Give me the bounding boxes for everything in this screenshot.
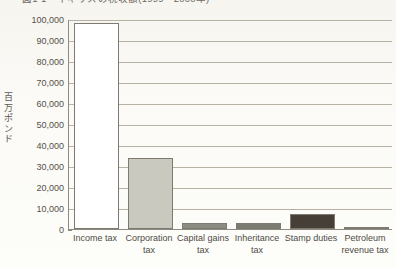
- y-axis-tick-labels: 010,00020,00030,00040,00050,00060,00070,…: [18, 20, 64, 230]
- y-axis-tick-label: 20,000: [18, 183, 64, 193]
- plot-area: [68, 20, 392, 230]
- bar: [344, 227, 389, 229]
- bar: [236, 223, 281, 229]
- chart-title: 図1-1 イギリスの税収額(1999－2000年): [22, 0, 394, 5]
- gridline: [69, 20, 392, 21]
- y-axis-title-char: ド: [1, 134, 15, 145]
- y-axis-tick-label: 50,000: [18, 120, 64, 130]
- y-axis-title: 百 万 ポ ン ド: [1, 92, 15, 145]
- y-axis-tick-label: 10,000: [18, 204, 64, 214]
- y-axis-tick-label: 0: [18, 225, 64, 235]
- x-axis-tick-label: Corporation tax: [122, 233, 176, 256]
- x-axis-tick-label: Inheritance tax: [230, 233, 284, 256]
- bar: [182, 223, 227, 229]
- y-axis-tick-label: 60,000: [18, 99, 64, 109]
- x-axis-tick-label: Capital gains tax: [176, 233, 230, 256]
- y-axis-tick-label: 100,000: [18, 15, 64, 25]
- x-axis-tick-label: Income tax: [68, 233, 122, 245]
- y-axis-tick-label: 90,000: [18, 36, 64, 46]
- y-axis-title-char: 百: [1, 92, 15, 103]
- bar-chart-figure: 図1-1 イギリスの税収額(1999－2000年) 百 万 ポ ン ド 010,…: [0, 0, 396, 268]
- y-axis-title-char: ン: [1, 124, 15, 135]
- x-axis-tick-label: Stamp duties: [284, 233, 338, 245]
- x-axis-tick-label: Petroleum revenue tax: [338, 233, 392, 256]
- y-axis-tick-mark: [68, 230, 72, 231]
- bar: [290, 214, 335, 229]
- y-axis-tick-label: 70,000: [18, 78, 64, 88]
- bar: [74, 23, 119, 229]
- y-axis-tick-label: 40,000: [18, 141, 64, 151]
- y-axis-tick-label: 80,000: [18, 57, 64, 67]
- y-axis-title-char: 万: [1, 103, 15, 114]
- x-axis-tick-labels: Income taxCorporation taxCapital gains t…: [68, 233, 392, 267]
- y-axis-title-char: ポ: [1, 113, 15, 124]
- y-axis-tick-label: 30,000: [18, 162, 64, 172]
- bar: [128, 158, 173, 229]
